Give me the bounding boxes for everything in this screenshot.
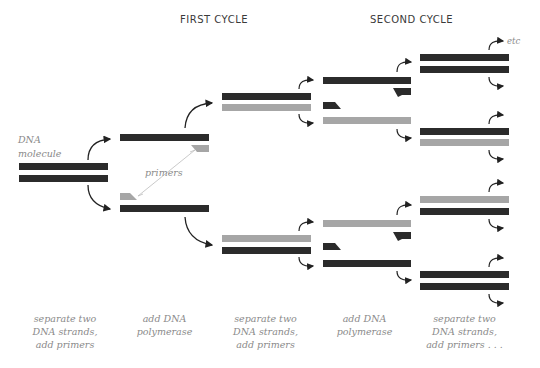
strand-dark xyxy=(120,205,209,212)
second-cycle-title: SECOND CYCLE xyxy=(370,14,453,25)
arrow-icon xyxy=(489,41,503,50)
arrow-icon xyxy=(489,115,503,124)
caption-line: DNA strands, xyxy=(412,325,517,338)
dna-label-line1: DNA xyxy=(18,133,62,147)
arrow-icon xyxy=(489,150,503,159)
caption-line: DNA strands, xyxy=(218,325,313,338)
step-1-caption: separate two DNA strands, add primers xyxy=(20,312,110,351)
caption-line: polymerase xyxy=(322,325,407,338)
arrow-icon xyxy=(185,103,212,128)
caption-line: polymerase xyxy=(122,325,207,338)
arrow-icon xyxy=(185,217,212,245)
dna-label-line2: molecule xyxy=(18,147,62,161)
arrow-icon xyxy=(88,185,110,209)
arrow-icon xyxy=(299,80,313,89)
strand-dark xyxy=(19,175,108,182)
dna-molecule xyxy=(19,163,108,182)
cycle2-separated xyxy=(323,77,411,267)
arrow-icon xyxy=(397,205,411,215)
arrow-icon xyxy=(299,222,313,231)
arrow-icon xyxy=(397,271,411,280)
arrow-icon xyxy=(489,77,503,86)
cycle2-products xyxy=(420,54,509,290)
strand-dark xyxy=(120,134,209,141)
caption-line: add primers xyxy=(20,338,110,351)
caption-line: separate two xyxy=(412,312,517,325)
primers-label: primers xyxy=(145,167,183,178)
first-cycle-title: FIRST CYCLE xyxy=(180,14,248,25)
step-3-caption: separate two DNA strands, add primers xyxy=(218,312,313,351)
caption-line: separate two xyxy=(218,312,313,325)
arrow-icon xyxy=(397,62,411,72)
step-2-caption: add DNA polymerase xyxy=(122,312,207,338)
caption-line: DNA strands, xyxy=(20,325,110,338)
step-5-caption: separate two DNA strands, add primers . … xyxy=(412,312,517,351)
dna-molecule-label: DNA molecule xyxy=(18,133,62,161)
primer-gray xyxy=(120,193,137,200)
arrow-icon xyxy=(489,258,503,267)
strand-dark xyxy=(19,163,108,170)
arrow-icon xyxy=(489,183,503,192)
caption-line: add primers xyxy=(218,338,313,351)
etc-label: etc xyxy=(507,36,520,46)
arrow-icon xyxy=(299,257,313,266)
arrow-icon xyxy=(88,139,110,160)
arrow-icon xyxy=(489,294,503,303)
step-4-caption: add DNA polymerase xyxy=(322,312,407,338)
arrow-icon xyxy=(397,129,411,138)
arrow-icon xyxy=(299,114,313,123)
caption-line: add DNA xyxy=(322,312,407,325)
arrow-icon xyxy=(489,219,503,228)
caption-line: add primers . . . xyxy=(412,338,517,351)
caption-line: add DNA xyxy=(122,312,207,325)
cycle1-products xyxy=(222,93,311,254)
caption-line: separate two xyxy=(20,312,110,325)
